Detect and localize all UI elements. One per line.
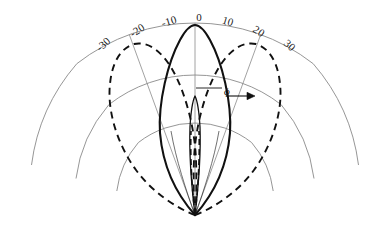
grid-arc-inner-tail-left	[117, 143, 139, 192]
grid-arc-outer-tail-left	[32, 64, 77, 165]
polar-plot-canvas	[0, 0, 387, 248]
scanned-lobe-left-outline	[109, 43, 196, 215]
grid-arc-middle-tail-left	[76, 105, 109, 179]
grid-arc-middle-tail-right	[281, 105, 314, 179]
scanned-lobe-right-outline	[194, 43, 281, 215]
series-scanned-lobe-right	[194, 43, 281, 215]
radial-line-minus20	[129, 35, 195, 215]
phi-arrow-head	[247, 92, 255, 99]
antenna-pattern-figure: -30 -20 -10 0 10 20 30 ϕ	[0, 0, 387, 248]
phi-symbol-label: ϕ	[224, 85, 230, 97]
grid-arc-inner-tail-right	[252, 143, 274, 192]
series-scanned-lobe-left	[109, 43, 196, 215]
tick-label-zero: 0	[196, 11, 202, 23]
radial-line-plus20	[195, 35, 261, 215]
grid-arc-outer-tail-right	[313, 64, 358, 165]
